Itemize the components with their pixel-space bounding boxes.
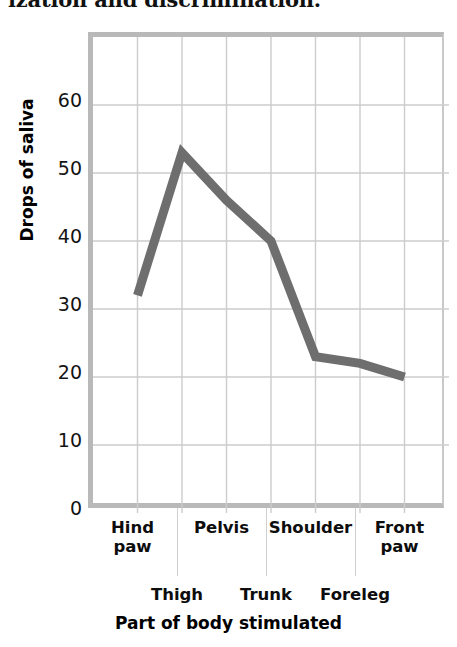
x-axis-tick-stem — [266, 508, 267, 576]
y-axis-tick-label: 50 — [6, 157, 82, 179]
x-axis-tick-label: Pelvis — [194, 518, 249, 537]
y-axis-tick-label: 0 — [6, 497, 82, 519]
y-axis-tick-label: 20 — [6, 361, 82, 383]
x-axis-tick-label: Trunk — [240, 585, 292, 604]
plot-area — [88, 32, 444, 508]
y-axis-tick-label: 60 — [6, 89, 82, 111]
x-axis-tick-stem — [177, 508, 178, 576]
y-axis-tick-label: 10 — [6, 429, 82, 451]
y-axis-tick-labels: 0102030405060 — [0, 0, 82, 647]
x-axis-tick-label: Foreleg — [320, 585, 390, 604]
saliva-line-chart-figure: Drops of saliva 0102030405060 Hind pawPe… — [0, 0, 457, 647]
x-axis-tick-label: Hind paw — [111, 518, 154, 556]
x-axis-title: Part of body stimulated — [0, 613, 457, 633]
x-axis-tick-label: Thigh — [151, 585, 203, 604]
x-axis-tick-label: Front paw — [375, 518, 424, 556]
x-axis-tick-label: Shoulder — [269, 518, 353, 537]
y-axis-tick-label: 30 — [6, 293, 82, 315]
x-axis-tick-stem — [355, 508, 356, 576]
y-axis-tick-label: 40 — [6, 225, 82, 247]
data-series-line — [93, 37, 449, 513]
